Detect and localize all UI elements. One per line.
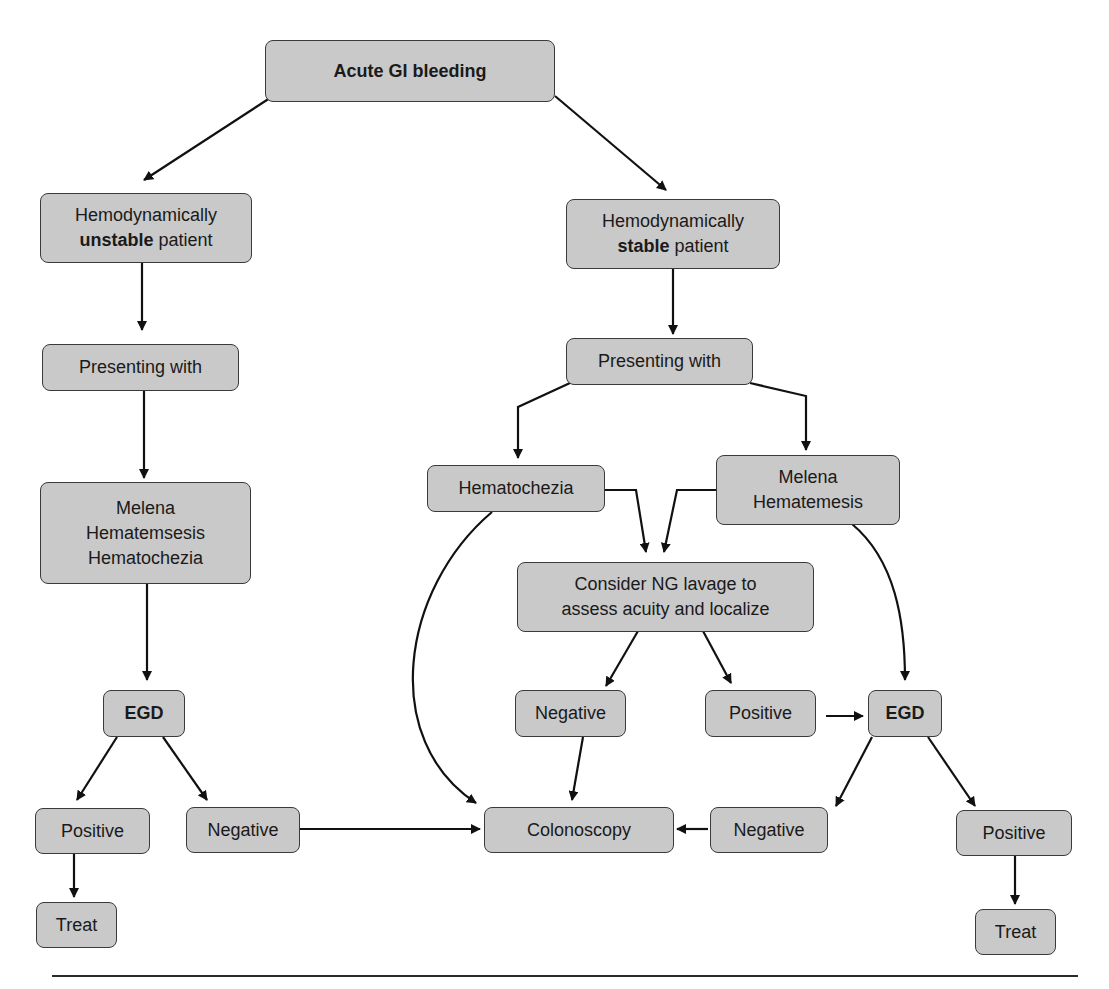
symptom-hematochezia: Hematochezia xyxy=(88,546,203,571)
stable-treat-node: Treat xyxy=(975,909,1056,955)
bottom-divider xyxy=(52,975,1078,977)
lavage-negative-label: Negative xyxy=(535,701,606,726)
ng-lavage-node: Consider NG lavage to assess acuity and … xyxy=(517,562,814,632)
unstable-presenting-node: Presenting with xyxy=(42,344,239,391)
unstable-presenting-label: Presenting with xyxy=(79,355,202,380)
melena-line: Melena xyxy=(778,465,837,490)
unstable-positive-node: Positive xyxy=(35,808,150,854)
root-node: Acute GI bleeding xyxy=(265,40,555,102)
unstable-positive-label: Positive xyxy=(61,819,124,844)
hematemesis-line: Hematemesis xyxy=(753,490,863,515)
unstable-symptoms-node: Melena Hematemsesis Hematochezia xyxy=(40,482,251,584)
stable-egd-negative-node: Negative xyxy=(710,807,828,853)
unstable-keyword: unstable xyxy=(79,230,153,250)
symptom-hematemsesis: Hematemsesis xyxy=(86,521,205,546)
lavage-negative-node: Negative xyxy=(515,690,626,737)
unstable-line2-rest: patient xyxy=(153,230,212,250)
colonoscopy-label: Colonoscopy xyxy=(527,818,631,843)
stable-line1: Hemodynamically xyxy=(602,209,744,234)
stable-egd-negative-label: Negative xyxy=(733,818,804,843)
hematochezia-node: Hematochezia xyxy=(427,465,605,512)
unstable-treat-label: Treat xyxy=(56,913,97,938)
stable-presenting-node: Presenting with xyxy=(566,338,753,385)
lavage-positive-label: Positive xyxy=(729,701,792,726)
ng-lavage-line2: assess acuity and localize xyxy=(561,597,769,622)
gi-bleeding-flowchart: Acute GI bleeding Hemodynamically unstab… xyxy=(0,0,1109,989)
stable-egd-positive-label: Positive xyxy=(982,821,1045,846)
lavage-positive-node: Positive xyxy=(705,690,816,737)
stable-treat-label: Treat xyxy=(995,920,1036,945)
symptom-melena: Melena xyxy=(116,496,175,521)
stable-presenting-label: Presenting with xyxy=(598,349,721,374)
unstable-line1: Hemodynamically xyxy=(75,203,217,228)
unstable-patient-node: Hemodynamically unstable patient xyxy=(40,193,252,263)
melena-hematemesis-node: Melena Hematemesis xyxy=(716,455,900,525)
stable-egd-label: EGD xyxy=(885,701,924,726)
unstable-negative-label: Negative xyxy=(207,818,278,843)
stable-keyword: stable xyxy=(617,236,669,256)
root-label: Acute GI bleeding xyxy=(333,59,486,84)
hematochezia-label: Hematochezia xyxy=(458,476,573,501)
stable-egd-node: EGD xyxy=(868,690,942,737)
stable-line2-rest: patient xyxy=(669,236,728,256)
stable-egd-positive-node: Positive xyxy=(956,810,1072,856)
unstable-egd-node: EGD xyxy=(103,690,185,737)
colonoscopy-node: Colonoscopy xyxy=(484,807,674,853)
unstable-egd-label: EGD xyxy=(124,701,163,726)
unstable-negative-node: Negative xyxy=(186,807,300,853)
ng-lavage-line1: Consider NG lavage to xyxy=(574,572,756,597)
unstable-treat-node: Treat xyxy=(36,902,117,948)
stable-patient-node: Hemodynamically stable patient xyxy=(566,199,780,269)
